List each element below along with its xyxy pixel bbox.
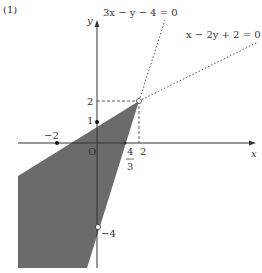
tick-label-yneg4: −4 (101, 228, 116, 239)
point-four-thirds-0 (124, 142, 127, 145)
line-x-2y+2-extension (139, 42, 258, 101)
tick-label-x-four-thirds-den: 3 (127, 161, 133, 172)
x-axis-arrow-icon (249, 141, 256, 146)
shaded-region (18, 101, 139, 268)
tick-label-x2: 2 (140, 146, 146, 157)
point-2-2-open (137, 99, 142, 104)
equation-label-2: x − 2y + 2 = 0 (186, 29, 261, 40)
point-0-neg4-open (96, 225, 101, 230)
coordinate-diagram: (1) y x O 3x − y − 4 = 0 x − 2y + 2 = 0 … (0, 0, 262, 273)
tick-label-xneg2: −2 (44, 130, 59, 141)
y-axis-arrow-icon (95, 20, 100, 27)
y-axis-label: y (86, 15, 93, 26)
problem-label: (1) (3, 4, 17, 15)
tick-label-y1: 1 (87, 115, 93, 126)
x-axis-label: x (251, 148, 257, 159)
point-0-1 (95, 120, 99, 124)
tick-label-x-four-thirds-num: 4 (127, 146, 133, 157)
tick-label-y2: 2 (87, 96, 93, 107)
origin-label: O (88, 146, 96, 157)
point-neg2-0 (55, 141, 59, 145)
equation-label-1: 3x − y − 4 = 0 (103, 7, 178, 18)
line-3x-y-4-extension (139, 20, 165, 101)
